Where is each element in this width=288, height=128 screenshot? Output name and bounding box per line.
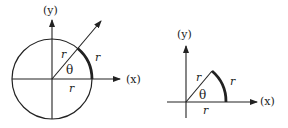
arc-length-r: [212, 71, 226, 102]
y-axis-label: (y): [43, 4, 58, 17]
angle-theta-label: θ: [199, 88, 206, 102]
radius-label-arc: r: [95, 51, 101, 64]
arc-length-r: [78, 49, 92, 80]
x-axis-label: (x): [260, 95, 275, 108]
radius-label-xaxis: r: [69, 82, 75, 95]
x-axis-label: (x): [126, 73, 141, 86]
angle-theta-label: θ: [66, 63, 73, 77]
radian-diagram: (y) (x) r r r θ (y) (x) r r r θ: [0, 0, 288, 128]
radius-label-ray: r: [61, 48, 67, 61]
radius-label-arc: r: [230, 75, 236, 88]
y-axis-label: (y): [177, 28, 192, 41]
left-figure: (y) (x) r r r θ: [12, 4, 141, 119]
radius-label-xaxis: r: [203, 104, 209, 117]
right-figure: (y) (x) r r r θ: [167, 28, 275, 118]
radius-label-ray: r: [196, 71, 202, 84]
radius-ray: [52, 21, 101, 79]
